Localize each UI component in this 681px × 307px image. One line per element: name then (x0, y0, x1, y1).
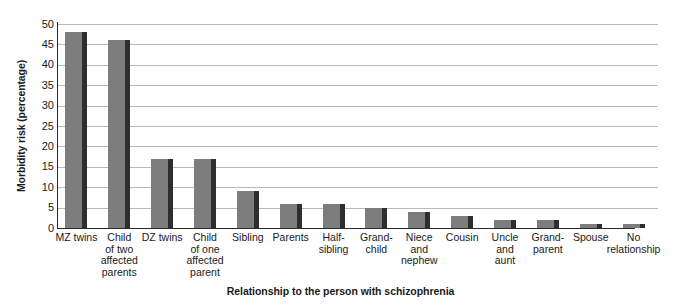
x-axis-title: Relationship to the person with schizoph… (0, 285, 681, 297)
bar-face (65, 32, 82, 228)
bar-face (280, 204, 297, 228)
bar-shadow (254, 191, 259, 228)
bar-chart-figure: Morbidity risk (percentage) 051015202530… (0, 0, 681, 307)
bar-shadow (468, 216, 473, 228)
y-axis-tick-label: 40 (30, 59, 54, 70)
bar-shadow (425, 212, 430, 228)
bar-shadow (340, 204, 345, 228)
y-axis-tick-label: 10 (30, 182, 54, 193)
x-axis-tick-label: No relationship (607, 232, 661, 255)
bar (237, 191, 259, 228)
y-axis-tick-label: 15 (30, 161, 54, 172)
x-axis-line (57, 228, 635, 230)
bar-face (323, 204, 340, 228)
y-axis-tick-label: 20 (30, 141, 54, 152)
bar-shadow (382, 208, 387, 228)
y-axis-line (57, 22, 58, 229)
y-axis-tick-label: 30 (30, 100, 54, 111)
y-axis-title: Morbidity risk (percentage) (13, 22, 29, 230)
bar-shadow (82, 32, 87, 228)
bar-shadow (297, 204, 302, 228)
bar-face (365, 208, 382, 228)
bar-shadow (211, 159, 216, 228)
bar (280, 204, 302, 228)
bar (365, 208, 387, 228)
y-axis-tick-label: 45 (30, 39, 54, 50)
y-axis-tick-label: 35 (30, 80, 54, 91)
bar (408, 212, 430, 228)
bar (194, 159, 216, 228)
bar-face (237, 191, 254, 228)
x-axis-tick-labels: MZ twinsChild of two affected parentsDZ … (58, 232, 658, 284)
y-axis-tick-label: 25 (30, 121, 54, 132)
y-axis-tick-label: 50 (30, 19, 54, 30)
y-axis-tick-labels: 05101520253035404550 (30, 24, 54, 228)
bar-shadow (168, 159, 173, 228)
bar-shadow (125, 40, 130, 228)
bar (151, 159, 173, 228)
plot-area (58, 24, 658, 228)
bar-face (108, 40, 125, 228)
bar-face (151, 159, 168, 228)
bar-face (408, 212, 425, 228)
bars-group (58, 24, 658, 228)
bar (323, 204, 345, 228)
bar-face (194, 159, 211, 228)
y-axis-tick-label: 5 (30, 202, 54, 213)
bar (65, 32, 87, 228)
bar-shadow (640, 224, 645, 228)
bar (451, 216, 473, 228)
bar (108, 40, 130, 228)
bar-face (451, 216, 468, 228)
